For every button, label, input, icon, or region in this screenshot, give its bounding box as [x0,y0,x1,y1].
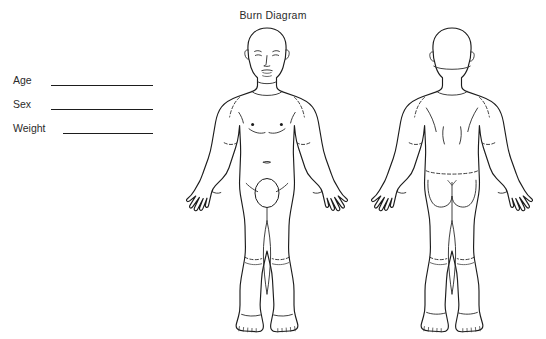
sex-label: Sex [13,98,31,110]
weight-label: Weight [13,122,46,134]
field-row-age[interactable]: Age [13,74,153,98]
age-label: Age [13,74,32,86]
page-title: Burn Diagram [0,9,546,21]
body-figure-posterior[interactable] [371,22,533,337]
field-row-weight[interactable]: Weight [13,122,153,146]
burn-diagram-page: Burn Diagram Age Sex Weight [0,0,546,339]
field-row-sex[interactable]: Sex [13,98,153,122]
sex-input-line[interactable] [51,109,153,110]
age-input-line[interactable] [51,85,153,86]
patient-fields: Age Sex Weight [13,74,153,146]
body-figure-anterior[interactable] [186,22,348,337]
weight-input-line[interactable] [63,133,153,134]
